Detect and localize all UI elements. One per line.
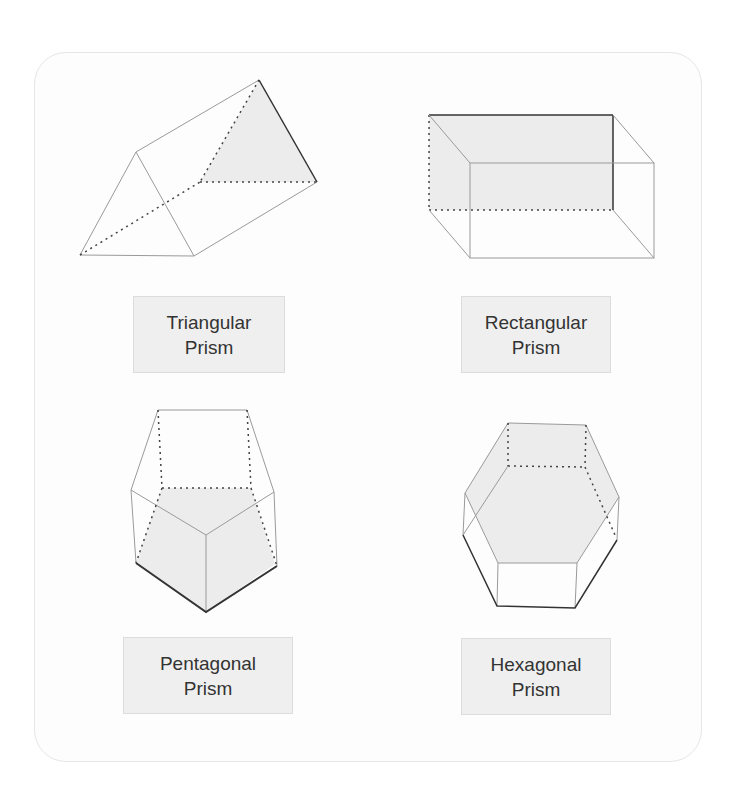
label-rectangular-prism: Rectangular Prism [461, 296, 611, 373]
label-line-2: Prism [184, 676, 233, 701]
label-line-2: Prism [185, 335, 234, 360]
rectangular-prism-drawing [429, 115, 654, 258]
hexagonal-prism-drawing [463, 423, 619, 608]
label-triangular-prism: Triangular Prism [133, 296, 285, 373]
prism-drawings [0, 0, 738, 798]
label-line-2: Prism [512, 335, 561, 360]
triangular-prism-drawing [80, 80, 317, 256]
label-pentagonal-prism: Pentagonal Prism [123, 637, 293, 714]
label-line-1: Triangular [167, 310, 252, 335]
label-line-1: Hexagonal [491, 652, 582, 677]
label-hexagonal-prism: Hexagonal Prism [461, 638, 611, 715]
label-line-1: Pentagonal [160, 651, 256, 676]
pentagonal-prism-drawing [131, 410, 277, 612]
label-line-1: Rectangular [485, 310, 587, 335]
label-line-2: Prism [512, 677, 561, 702]
